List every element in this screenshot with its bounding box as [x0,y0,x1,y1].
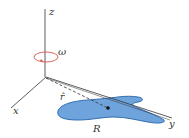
rotation-arrow-icon [34,52,58,62]
rotation-diagram: z ω x y r̂ R [0,0,189,138]
y-axis-label: y [168,118,175,129]
mass-point [106,106,110,110]
region-label: R [92,123,101,134]
z-axis-label: z [48,6,55,17]
omega-label: ω [58,46,66,57]
r-hat-label: r̂ [60,92,65,102]
x-axis-label: x [13,105,19,116]
x-axis [11,77,46,108]
